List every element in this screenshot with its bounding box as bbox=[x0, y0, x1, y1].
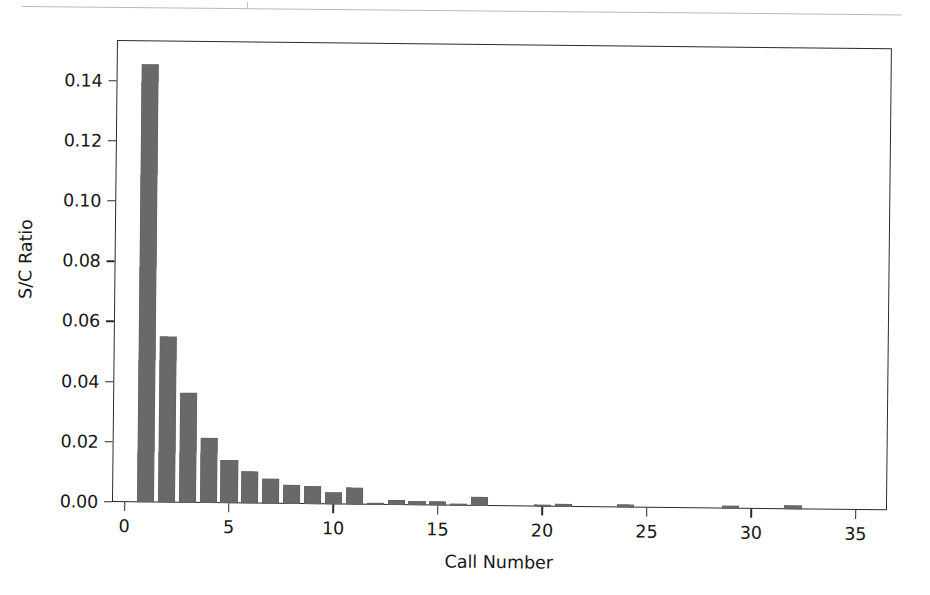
bar bbox=[450, 504, 467, 506]
x-axis-tick-mark bbox=[646, 508, 647, 517]
y-axis-tick-mark bbox=[104, 501, 112, 502]
y-axis-tick-mark bbox=[108, 140, 116, 141]
x-axis-tick-label: 15 bbox=[426, 519, 448, 539]
x-axis-tick-label: 10 bbox=[322, 518, 344, 538]
y-axis-tick-mark bbox=[107, 200, 115, 201]
x-axis-tick-label: 35 bbox=[844, 524, 866, 544]
bar bbox=[784, 505, 801, 509]
bar bbox=[220, 460, 238, 504]
x-axis-tick-label: 30 bbox=[740, 523, 762, 543]
bar bbox=[471, 496, 488, 506]
bar bbox=[387, 500, 404, 505]
y-axis-tick-mark bbox=[109, 80, 117, 81]
x-axis-tick-mark bbox=[437, 505, 438, 514]
bar bbox=[137, 64, 159, 502]
x-axis-tick-mark bbox=[541, 507, 542, 516]
y-axis-tick-mark bbox=[105, 381, 113, 382]
bar bbox=[158, 336, 177, 503]
x-axis-tick-mark bbox=[228, 503, 229, 512]
bar bbox=[408, 501, 425, 506]
y-axis-tick-label: 0.02 bbox=[60, 431, 98, 451]
bar bbox=[617, 504, 634, 507]
bar bbox=[199, 438, 217, 503]
y-axis-tick-label: 0.04 bbox=[61, 371, 99, 391]
bar bbox=[283, 485, 300, 504]
bar bbox=[304, 486, 321, 504]
y-axis-tick-label: 0.06 bbox=[62, 311, 100, 331]
bar-chart-figure: 0.000.020.040.060.080.100.120.14 S/C Rat… bbox=[0, 0, 930, 595]
scanned-page: 0.000.020.040.060.080.100.120.14 S/C Rat… bbox=[0, 0, 930, 595]
x-axis-tick-label: 5 bbox=[223, 517, 234, 537]
bar bbox=[367, 502, 384, 505]
x-axis-tick-mark bbox=[333, 504, 334, 513]
bar bbox=[262, 479, 279, 504]
x-axis-tick-mark bbox=[750, 509, 751, 518]
y-axis-label: S/C Ratio bbox=[15, 189, 37, 329]
x-axis-tick-label: 0 bbox=[119, 516, 130, 536]
x-axis-tick-mark bbox=[124, 502, 125, 511]
y-axis-tick-label: 0.08 bbox=[62, 251, 100, 271]
bar bbox=[179, 392, 197, 502]
plot-area bbox=[112, 40, 892, 510]
bar bbox=[346, 487, 363, 505]
x-axis-tick-mark bbox=[855, 510, 856, 519]
bar bbox=[325, 492, 342, 504]
x-axis-tick-label: 25 bbox=[635, 522, 657, 542]
x-axis-label: Call Number bbox=[111, 548, 886, 576]
y-axis-tick-mark bbox=[106, 321, 114, 322]
bar bbox=[241, 471, 258, 504]
y-axis-tick-label: 0.10 bbox=[63, 190, 101, 210]
bar bbox=[722, 506, 739, 509]
y-axis-tick-label: 0.12 bbox=[64, 130, 102, 150]
bar bbox=[555, 504, 572, 507]
y-axis-tick-mark bbox=[107, 260, 115, 261]
x-axis-tick-label: 20 bbox=[531, 520, 553, 540]
y-axis-tick-label: 0.14 bbox=[64, 70, 102, 90]
y-axis-tick-mark bbox=[105, 441, 113, 442]
y-axis-tick-label: 0.00 bbox=[60, 491, 98, 511]
